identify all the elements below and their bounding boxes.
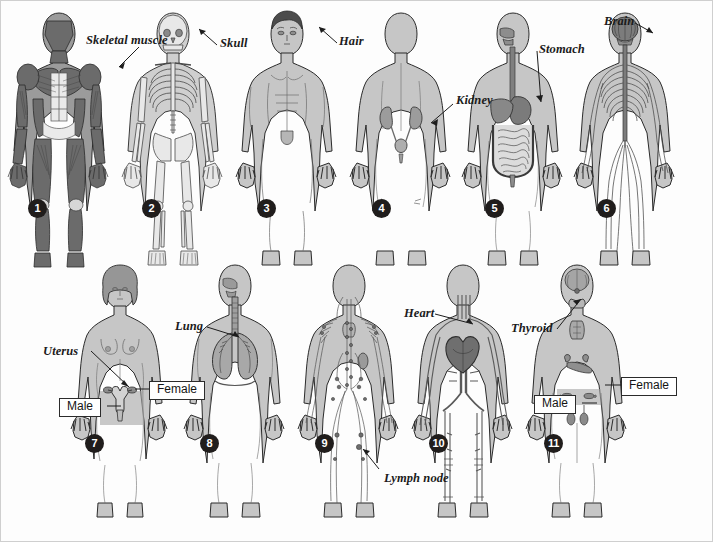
stomach-organ: [510, 97, 531, 125]
sex-label-male-figure-11: Male: [534, 395, 576, 414]
highlighted-lymph-node: [356, 444, 361, 449]
figure-3-integumentary-system: [236, 11, 336, 265]
figure-badge-6: 6: [597, 199, 616, 218]
callout-hair: Hair: [339, 34, 364, 49]
figure-badge-9: 9: [315, 434, 334, 453]
callout-heart: Heart: [404, 306, 434, 321]
figure-4-urinary-system: [350, 13, 450, 265]
figure-9-lymphatic-system: [298, 265, 398, 517]
liver-organ: [491, 99, 513, 123]
esophagus-organ: [510, 47, 515, 101]
sex-label-male-figure-7: Male: [59, 398, 101, 417]
callout-thyroid: Thyroid: [511, 321, 553, 336]
figure-badge-7: 7: [85, 434, 104, 453]
figure-badge-2: 2: [142, 199, 161, 218]
leader-line-skeletal-muscle: [119, 47, 139, 67]
large-intestine-organ: [493, 125, 533, 177]
figure-6-nervous-system: [574, 13, 674, 265]
thymus-organ: [343, 323, 356, 337]
figure-2-skeletal-system: [122, 13, 222, 265]
callout-lung: Lung: [175, 319, 203, 334]
figure-badge-11: 11: [544, 434, 563, 453]
diaphragm: [215, 381, 255, 386]
figure-badge-5: 5: [485, 199, 504, 218]
callout-uterus: Uterus: [43, 344, 78, 359]
trachea-organ: [232, 297, 238, 335]
figure-badge-8: 8: [200, 434, 219, 453]
body-systems-artwork: [1, 1, 713, 542]
callout-lymph-node: Lymph node: [384, 471, 449, 486]
callout-skull: Skull: [220, 36, 248, 51]
bladder-organ: [395, 139, 407, 153]
spinal-cord: [623, 45, 627, 141]
sex-label-female-figure-7: Female: [149, 381, 205, 400]
figure-badge-4: 4: [372, 199, 391, 218]
diagram-canvas: 1 2 3 4 5 6 7 8 9 10 11 Skeletal muscle …: [0, 0, 713, 542]
figure-badge-10: 10: [429, 434, 448, 453]
callout-brain: Brain: [604, 14, 634, 29]
callout-stomach: Stomach: [539, 42, 585, 57]
figure-1-muscular-system: [8, 13, 108, 267]
figure-badge-1: 1: [28, 199, 47, 218]
callout-kidney: Kidney: [456, 93, 493, 108]
callout-skeletal-muscle: Skeletal muscle: [86, 33, 168, 48]
spleen-organ: [358, 353, 368, 369]
figure-badge-3: 3: [257, 199, 276, 218]
sex-label-female-figure-11: Female: [621, 377, 677, 396]
